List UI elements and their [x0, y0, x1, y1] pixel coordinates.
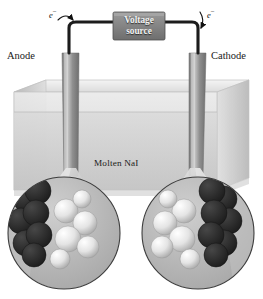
anode-label: Anode	[7, 50, 35, 61]
ion-sphere	[73, 190, 91, 208]
cathode-magnifier	[142, 177, 254, 289]
cell-right-face	[217, 80, 249, 190]
ion-sphere	[159, 190, 177, 208]
wire-anode-to-source	[69, 22, 115, 53]
wire-source-to-cathode	[164, 22, 198, 53]
electron-charge-right: −	[211, 8, 215, 16]
electron-arrow-right	[200, 12, 203, 28]
electron-label-right: e−	[207, 8, 215, 20]
electron-label-left: e−	[49, 8, 57, 20]
anode-electrode[interactable]	[62, 53, 79, 176]
electrolyte-label: Molten NaI	[94, 158, 139, 168]
cathode-label: Cathode	[211, 50, 246, 61]
voltage-source-label[interactable]: Voltage source	[113, 12, 165, 40]
anode-magnifier	[8, 177, 120, 289]
voltage-source-line1: Voltage	[124, 15, 154, 26]
electrolysis-figure: Anode Cathode Molten NaI Voltage source …	[0, 0, 263, 299]
electrode-atom-sphere	[22, 243, 46, 267]
electron-charge-left: −	[53, 8, 57, 16]
ion-sphere	[151, 236, 173, 258]
ion-sphere	[50, 249, 70, 269]
cell-top-face	[14, 80, 249, 92]
voltage-source-line2: source	[126, 26, 152, 37]
ion-sphere	[77, 236, 99, 258]
electron-arrow-left	[58, 16, 73, 20]
ion-sphere	[180, 249, 200, 269]
electrode-atom-sphere	[204, 243, 228, 267]
figure-canvas	[0, 0, 263, 299]
cathode-electrode[interactable]	[189, 53, 206, 176]
